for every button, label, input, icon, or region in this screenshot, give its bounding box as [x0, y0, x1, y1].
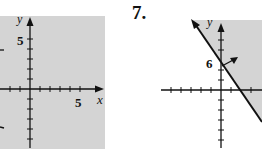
- y-axis-label: y: [206, 15, 213, 29]
- x-axis-label: x: [96, 92, 103, 107]
- y-intercept-label: 6: [206, 56, 213, 71]
- graph-panel-right: 7.: [131, 0, 262, 157]
- shaded-region: [0, 16, 105, 149]
- x-tick-label: 5: [75, 95, 82, 110]
- y-axis-label: y: [16, 12, 23, 26]
- graph-left-plot: y 5 5 x: [0, 0, 131, 157]
- y-tick-label: 5: [17, 33, 24, 48]
- graph-panel-left: y 5 5 x: [0, 0, 131, 157]
- graph-right-plot: y 6: [131, 0, 262, 157]
